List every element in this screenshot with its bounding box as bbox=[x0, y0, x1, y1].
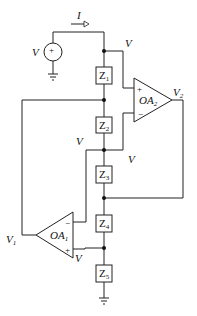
oa1-minus: − bbox=[65, 218, 70, 228]
oa1-plus: + bbox=[65, 245, 70, 255]
oa2-plus: + bbox=[137, 84, 142, 94]
current-arrow-head bbox=[84, 21, 89, 27]
v2-label: V2 bbox=[173, 86, 184, 100]
node-label-v-bottom: V bbox=[75, 252, 83, 264]
circuit-diagram: I + V V V1 V V V2 V + − OA2 − + OA1 bbox=[0, 0, 197, 316]
impedance-z3: Z3 bbox=[96, 166, 112, 183]
ground-icon bbox=[48, 74, 58, 80]
current-label: I bbox=[76, 9, 82, 21]
impedance-z4: Z4 bbox=[96, 215, 112, 232]
node-label-v-top: V bbox=[125, 37, 133, 49]
v1-label: V1 bbox=[6, 233, 16, 247]
impedance-z5: Z5 bbox=[96, 265, 112, 282]
node-label-v-right: V bbox=[128, 153, 136, 165]
impedance-z1: Z1 bbox=[96, 67, 112, 84]
source-label: V bbox=[32, 46, 40, 58]
source-plus: + bbox=[49, 45, 54, 55]
impedance-z2: Z2 bbox=[96, 117, 112, 133]
node-label-v-left: V bbox=[76, 135, 84, 147]
oa2-minus: − bbox=[138, 109, 143, 119]
ground-icon bbox=[99, 298, 109, 304]
